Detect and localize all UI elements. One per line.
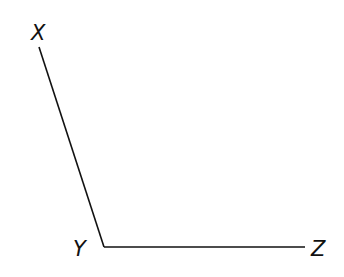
point-label-x: X [30, 21, 46, 45]
point-label-y: Y [73, 237, 88, 261]
angle-diagram: X Y Z [0, 0, 344, 277]
point-label-z: Z [310, 237, 326, 261]
segment-xy [39, 47, 104, 247]
